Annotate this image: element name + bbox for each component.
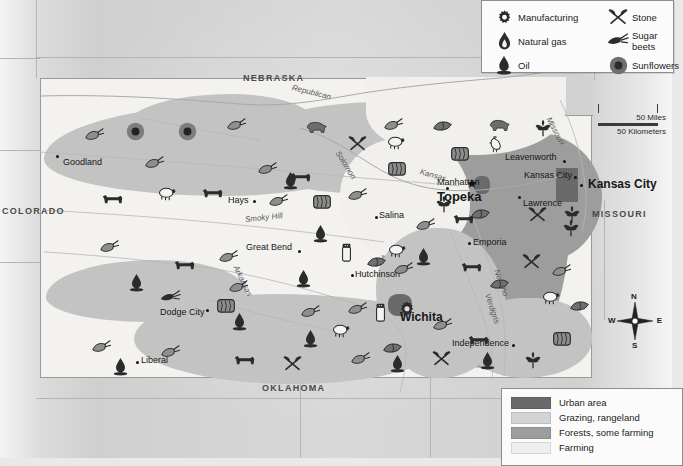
landuse-legend: Urban area Grazing, rangeland Forests, s… xyxy=(501,388,683,466)
landuse-label-farming: Farming xyxy=(559,442,594,453)
soybean-icon xyxy=(569,298,590,314)
compass-west-label: W xyxy=(608,316,616,325)
oil-derrick-icon xyxy=(296,270,311,288)
cattle-icon xyxy=(467,333,490,348)
city-dot-independence xyxy=(512,344,515,347)
city-label-great-bend: Great Bend xyxy=(246,243,292,252)
gear-icon xyxy=(490,8,518,26)
hay-bale-icon xyxy=(216,297,236,314)
landuse-label-forest: Forests, some farming xyxy=(559,427,654,438)
resource-legend: Manufacturing Stone Natural gas xyxy=(481,0,674,73)
pick-axe-icon xyxy=(528,206,547,223)
legend-item-stone: Stone xyxy=(632,12,679,23)
city-dot-hutchinson xyxy=(351,274,354,277)
wheat-icon xyxy=(347,302,367,317)
city-dot-lawrence xyxy=(518,196,521,199)
sheep-icon xyxy=(156,186,178,201)
corn-icon xyxy=(534,120,552,138)
sheep-icon xyxy=(330,323,352,338)
corn-icon xyxy=(524,352,542,370)
salt-shaker-icon xyxy=(341,243,352,262)
legend-item-manufacturing: Manufacturing xyxy=(518,12,604,23)
sugar-beet-icon xyxy=(160,290,181,305)
wheat-icon xyxy=(383,118,403,133)
scale-miles-label: 50 Miles xyxy=(598,113,666,122)
pick-axe-icon xyxy=(522,253,541,270)
landuse-swatch-forest xyxy=(511,427,551,439)
cattle-icon xyxy=(460,260,483,275)
wheat-icon xyxy=(268,194,288,209)
landuse-legend-row: Farming xyxy=(511,440,682,455)
scale-bar: 50 Miles 50 Kilometers xyxy=(598,104,666,136)
oil-derrick-icon xyxy=(129,274,144,292)
sheep-icon xyxy=(385,135,407,150)
city-dot-great-bend xyxy=(298,250,301,253)
hay-bale-icon xyxy=(387,160,407,177)
soybean-icon xyxy=(382,340,403,356)
pick-axe-icon xyxy=(432,350,451,367)
sunflower-icon xyxy=(178,122,197,141)
landuse-swatch-farming xyxy=(511,442,551,454)
city-label-dodge-city: Dodge City xyxy=(160,308,205,317)
oil-derrick-icon xyxy=(283,172,298,190)
landuse-label-urban: Urban area xyxy=(559,397,607,408)
pick-axe-icon xyxy=(604,8,632,26)
landuse-swatch-grazing xyxy=(511,412,551,424)
wheat-icon xyxy=(84,128,104,143)
soybean-icon xyxy=(366,254,387,270)
cattle-icon xyxy=(101,192,124,207)
cattle-icon xyxy=(233,353,256,368)
wheat-icon xyxy=(218,250,238,265)
city-label-emporia: Emporia xyxy=(473,238,507,247)
wheat-icon xyxy=(393,262,413,277)
landuse-legend-row: Forests, some farming xyxy=(511,425,682,440)
city-dot-leavenworth xyxy=(563,160,566,163)
city-dot-kansas-city-ks xyxy=(574,176,577,179)
wheat-icon xyxy=(347,188,367,203)
oil-derrick-icon xyxy=(232,313,247,331)
hay-bale-icon xyxy=(312,193,332,210)
gas-flame-icon xyxy=(490,32,518,50)
oil-derrick-icon xyxy=(390,355,405,373)
wheat-icon xyxy=(257,162,277,177)
city-dot-hays xyxy=(253,200,256,203)
wheat-icon xyxy=(99,240,119,255)
landuse-swatch-urban xyxy=(511,397,551,409)
salt-shaker-icon xyxy=(375,303,386,322)
corn-icon xyxy=(435,196,453,214)
wheat-icon xyxy=(144,156,164,171)
city-label-leavenworth: Leavenworth xyxy=(505,153,557,162)
state-label-missouri: MISSOURI xyxy=(592,210,647,219)
wheat-icon xyxy=(415,218,435,233)
wheat-icon xyxy=(551,264,571,279)
state-label-colorado: COLORADO xyxy=(2,207,65,216)
scale-ticks xyxy=(598,104,666,113)
wheat-icon xyxy=(228,280,248,295)
oil-derrick-icon xyxy=(416,248,431,266)
hog-icon xyxy=(305,120,327,134)
city-dot-salina xyxy=(375,216,378,219)
hay-bale-icon xyxy=(552,330,572,347)
hay-bale-icon xyxy=(450,145,470,162)
wheat-icon xyxy=(91,340,111,355)
wheat-icon xyxy=(160,345,180,360)
compass-north-label: N xyxy=(631,292,637,301)
compass-east-label: E xyxy=(657,316,662,325)
cattle-icon xyxy=(201,186,224,201)
corn-icon xyxy=(562,220,580,238)
wheat-icon xyxy=(350,352,370,367)
sheep-icon xyxy=(540,290,562,305)
soybean-icon xyxy=(489,276,510,292)
state-label-nebraska: NEBRASKA xyxy=(243,74,304,83)
legend-item-sugar-beets: Sugar beets xyxy=(632,30,679,52)
landuse-legend-row: Urban area xyxy=(511,395,682,410)
wheat-icon xyxy=(300,305,320,320)
city-dot-goodland xyxy=(56,155,59,158)
wheat-icon xyxy=(226,118,246,133)
city-label-hays: Hays xyxy=(228,196,249,205)
pick-axe-icon xyxy=(283,355,302,372)
chicken-icon xyxy=(487,136,503,153)
city-dot-emporia xyxy=(468,242,471,245)
state-label-oklahoma: OKLAHOMA xyxy=(262,384,325,393)
